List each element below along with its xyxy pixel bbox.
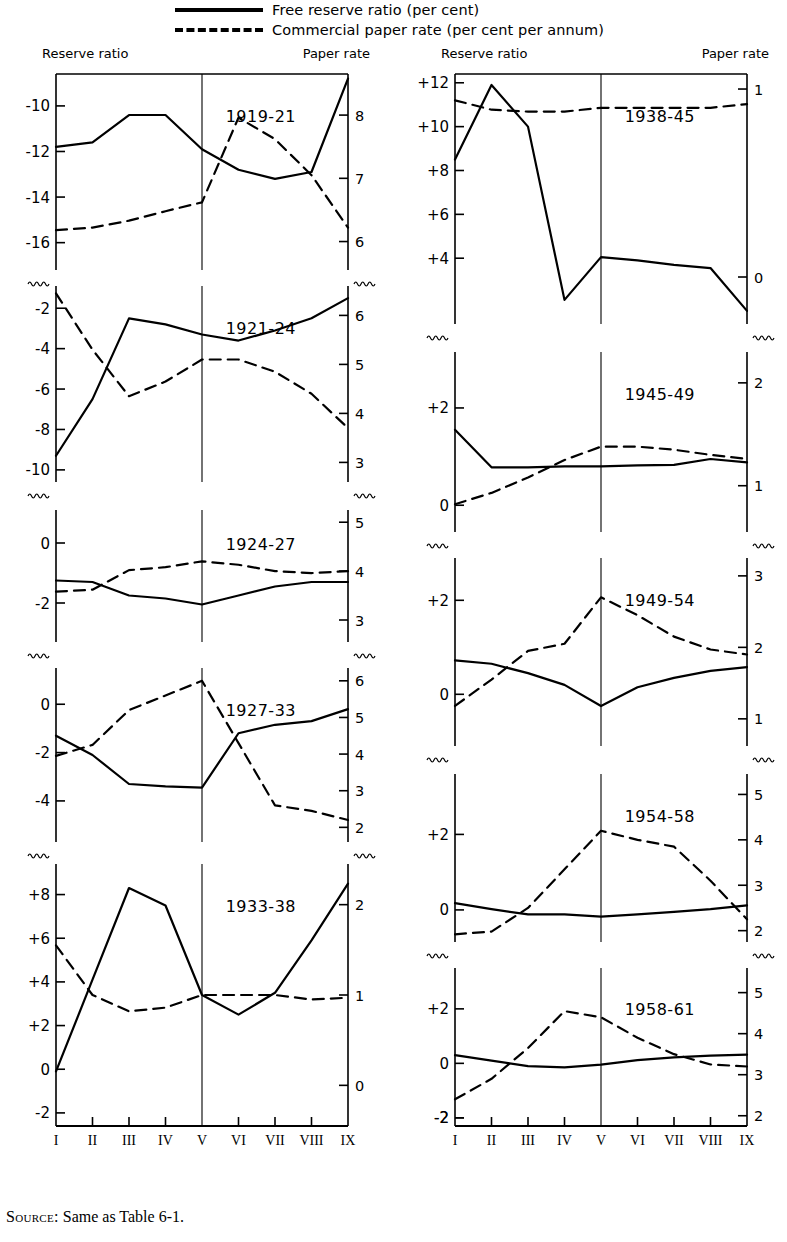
right-tick-label: 2 [754,923,763,939]
x-tick-label: VIII [698,1133,722,1148]
right-tick-label: 3 [355,455,364,471]
panel-title: 1921-24 [226,319,296,338]
x-tick-label: VI [630,1133,645,1148]
panel-1945-49: +20211945-49 [427,352,774,548]
left-axis-caption-right-col: Reserve ratio [441,46,527,61]
left-tick-label: +4 [28,973,50,991]
right-tick-label: 3 [754,1067,763,1083]
x-tick-label: II [487,1133,497,1148]
x-tick-label: VII [265,1133,285,1148]
source-note: Source: Same as Table 6-1. [6,1208,184,1226]
left-tick-label: -10 [26,461,51,479]
panel-title: 1919-21 [226,107,296,126]
right-tick-label: 7 [355,171,364,187]
right-tick-label: 4 [355,406,364,422]
legend-swatch-solid-icon [175,8,263,12]
right-tick-label: 6 [355,234,364,250]
left-tick-label: -4 [35,792,50,810]
left-tick-label: +2 [427,592,449,610]
right-tick-label: 1 [754,82,763,98]
right-tick-label: 5 [355,710,364,726]
left-tick-label: +2 [28,1017,50,1035]
right-tick-label: 5 [754,787,763,803]
panel-title: 1949-54 [625,591,695,610]
right-tick-label: 5 [355,515,364,531]
right-tick-label: 8 [355,108,364,124]
panel-1919-21: -10-12-14-168761919-21 [26,74,376,286]
x-tick-label: I [453,1133,458,1148]
left-tick-label: +10 [417,118,449,136]
panel-1933-38: +8+6+4+20-22101933-38IIIIIIIVVVIVIIVIIII… [28,864,364,1148]
left-tick-label: -8 [35,421,50,439]
legend-label-free-reserve-ratio: Free reserve ratio (per cent) [272,2,479,18]
right-tick-label: 3 [355,783,364,799]
x-tick-label: II [88,1133,98,1148]
panel-1954-58: +2054321954-58 [427,774,774,958]
left-tick-label: +2 [427,826,449,844]
right-tick-label: 3 [355,613,364,629]
left-tick-label: 0 [439,686,449,704]
left-tick-label: -2 [35,595,50,613]
panel-title: 1958-61 [625,1000,695,1019]
left-tick-label: +8 [28,886,50,904]
left-tick-label: +8 [427,162,449,180]
left-tick-label: +6 [427,206,449,224]
left-tick-label: -6 [35,381,50,399]
left-tick-label: -10 [26,97,51,115]
panel-1938-45: +12+10+8+6+4101938-45 [417,74,774,340]
left-tick-label: -14 [26,189,51,207]
panel-title: 1924-27 [226,535,296,554]
left-tick-label: 0 [40,535,50,553]
right-axis-caption: Paper rate [303,46,370,61]
right-tick-label: 1 [754,711,763,727]
left-tick-label: 0 [40,1061,50,1079]
panel-1921-24: -2-4-6-8-1065431921-24 [26,286,376,498]
right-tick-label: 1 [355,988,364,1004]
right-tick-label: 4 [754,1026,763,1042]
x-tick-label: IV [557,1133,572,1148]
right-tick-label: 0 [754,270,763,286]
x-tick-label: VIII [299,1133,323,1148]
x-tick-label: IX [341,1133,356,1148]
left-tick-label: +6 [28,930,50,948]
right-tick-label: 6 [355,308,364,324]
x-tick-label: III [122,1133,136,1148]
panel-title: 1954-58 [625,807,695,826]
chart-column-right: Reserve ratio Paper rate +12+10+8+6+4101… [403,46,783,1196]
panel-1924-27: 0-25431924-27 [28,510,375,658]
right-tick-label: 2 [355,897,364,913]
right-axis-caption-right-col: Paper rate [702,46,769,61]
right-tick-label: 1 [754,478,763,494]
panel-title: 1933-38 [226,897,296,916]
right-tick-label: 0 [355,1078,364,1094]
column-right-axis-captions: Reserve ratio Paper rate [403,46,783,64]
right-tick-label: 2 [754,640,763,656]
x-tick-label: IV [158,1133,173,1148]
left-tick-label: +2 [427,1000,449,1018]
left-axis-caption: Reserve ratio [42,46,128,61]
right-tick-label: 2 [355,820,364,836]
panel-title: 1927-33 [226,701,296,720]
right-tick-label: 4 [754,832,763,848]
left-tick-label: -16 [26,234,51,252]
panel-1949-54: +203211949-54 [427,558,774,762]
right-tick-label: 3 [754,568,763,584]
right-tick-label: 5 [355,357,364,373]
left-tick-label: 0 [439,497,449,515]
left-tick-label: +4 [427,250,449,268]
left-tick-label: 0 [40,696,50,714]
x-tick-label: V [596,1133,606,1148]
source-note-text: Same as Table 6-1. [59,1208,184,1225]
right-tick-label: 2 [754,1108,763,1124]
right-tick-label: 3 [754,878,763,894]
figure-root: Free reserve ratio (per cent) Commercial… [0,0,787,1242]
panel-title: 1945-49 [625,385,695,404]
x-tick-label: VII [664,1133,684,1148]
left-tick-label: 0 [439,1055,449,1073]
right-tick-label: 5 [754,985,763,1001]
column-left-axis-captions: Reserve ratio Paper rate [4,46,384,64]
left-tick-label: -2 [35,300,50,318]
right-tick-label: 4 [355,747,364,763]
source-note-prefix: Source: [6,1208,59,1225]
right-tick-label: 2 [754,375,763,391]
